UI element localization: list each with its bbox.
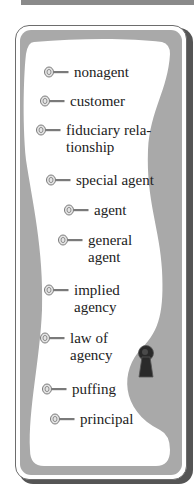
term-label: customer bbox=[70, 93, 125, 110]
key-icon bbox=[44, 66, 70, 78]
term-label: puffing bbox=[72, 381, 116, 398]
term-label: agent bbox=[94, 202, 126, 219]
keyhole-icon bbox=[137, 345, 155, 379]
key-icon bbox=[58, 234, 84, 246]
key-icon bbox=[36, 124, 62, 136]
top-divider-bar bbox=[21, 0, 194, 5]
key-terms-frame: nonagent customer fiduciary rela- tionsh… bbox=[20, 30, 182, 475]
term-label: fiduciary rela- tionship bbox=[66, 122, 151, 156]
key-icon bbox=[44, 284, 70, 296]
term-item-puffing: puffing bbox=[42, 381, 116, 398]
term-item-implied-agency: implied agency bbox=[44, 282, 120, 316]
term-item-fiduciary-relationship: fiduciary rela- tionship bbox=[36, 122, 151, 156]
key-icon bbox=[64, 204, 90, 216]
term-item-law-of-agency: law of agency bbox=[40, 330, 112, 364]
term-label: nonagent bbox=[74, 64, 129, 81]
key-icon bbox=[40, 95, 66, 107]
term-item-agent: agent bbox=[64, 202, 126, 219]
term-item-special-agent: special agent bbox=[46, 172, 154, 189]
term-item-general-agent: general agent bbox=[58, 232, 132, 266]
key-icon bbox=[40, 332, 66, 344]
term-label: special agent bbox=[76, 172, 154, 189]
term-label: law of agency bbox=[70, 330, 112, 364]
term-label: principal bbox=[80, 411, 133, 428]
term-item-principal: principal bbox=[50, 411, 133, 428]
key-icon bbox=[42, 383, 68, 395]
key-terms-panel: nonagent customer fiduciary rela- tionsh… bbox=[15, 25, 187, 480]
term-label: general agent bbox=[88, 232, 132, 266]
term-item-nonagent: nonagent bbox=[44, 64, 129, 81]
key-icon bbox=[46, 174, 72, 186]
term-label: implied agency bbox=[74, 282, 120, 316]
key-icon bbox=[50, 413, 76, 425]
term-item-customer: customer bbox=[40, 93, 125, 110]
